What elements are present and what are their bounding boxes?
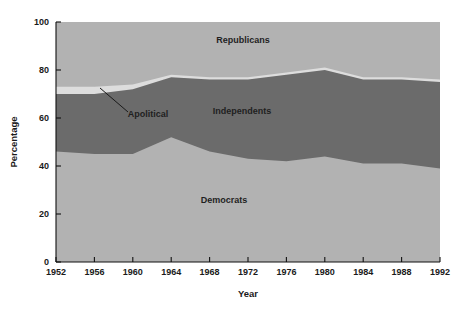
stacked-area-chart: 0204060801001952195619601964196819721976… bbox=[0, 0, 462, 312]
x-axis-title: Year bbox=[238, 288, 258, 299]
y-tick-label: 100 bbox=[34, 17, 49, 27]
y-tick-label: 40 bbox=[39, 161, 49, 171]
chart-figure: 0204060801001952195619601964196819721976… bbox=[0, 0, 462, 312]
x-tick-label: 1960 bbox=[123, 267, 143, 277]
x-tick-label: 1968 bbox=[200, 267, 220, 277]
series-label-republicans: Republicans bbox=[216, 35, 270, 45]
x-tick-label: 1992 bbox=[430, 267, 450, 277]
x-tick-label: 1988 bbox=[392, 267, 412, 277]
y-tick-label: 60 bbox=[39, 113, 49, 123]
series-label-democrats: Democrats bbox=[201, 195, 248, 205]
x-tick-label: 1980 bbox=[315, 267, 335, 277]
y-tick-label: 80 bbox=[39, 65, 49, 75]
x-tick-label: 1952 bbox=[46, 267, 66, 277]
y-tick-label: 20 bbox=[39, 209, 49, 219]
series-label-apolitical: Apolitical bbox=[128, 109, 169, 119]
x-tick-label: 1972 bbox=[238, 267, 258, 277]
area-series-group bbox=[56, 22, 440, 262]
x-tick-label: 1976 bbox=[276, 267, 296, 277]
x-tick-label: 1956 bbox=[84, 267, 104, 277]
x-tick-label: 1964 bbox=[161, 267, 181, 277]
series-label-independents: Independents bbox=[213, 106, 272, 116]
y-tick-label: 0 bbox=[44, 257, 49, 267]
x-tick-label: 1984 bbox=[353, 267, 373, 277]
y-axis-title: Percentage bbox=[8, 116, 19, 167]
